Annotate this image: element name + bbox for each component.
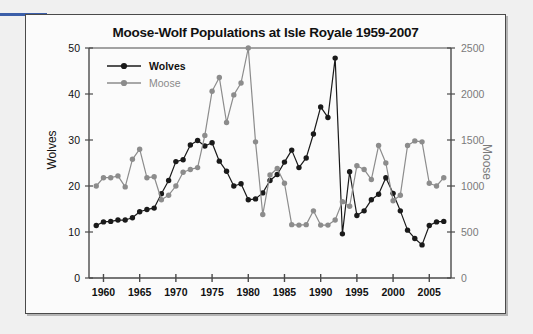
- data-point-moose: [130, 157, 135, 162]
- y-axis-right-tick-label: 0: [461, 272, 467, 284]
- x-axis-tick-label: 2005: [418, 286, 442, 298]
- data-point-moose: [108, 175, 113, 180]
- x-axis-tick-label: 1970: [164, 286, 188, 298]
- y-axis-right-tick-label: 2500: [461, 42, 485, 54]
- data-point-wolves: [332, 55, 337, 60]
- chart-figure-frame: Moose-Wolf Populations at Isle Royale 19…: [25, 14, 506, 314]
- data-point-wolves: [361, 208, 366, 213]
- data-point-moose: [195, 165, 200, 170]
- x-axis-tick-label: 1985: [273, 286, 297, 298]
- y-axis-left-tick-label: 50: [68, 42, 80, 54]
- data-point-moose: [383, 160, 388, 165]
- y-axis-right-tick-label: 2000: [461, 88, 485, 100]
- legend-label-moose: Moose: [149, 77, 181, 89]
- legend-marker-wolves: [121, 63, 127, 69]
- data-point-moose: [144, 175, 149, 180]
- legend-layer: WolvesMoose: [107, 60, 186, 89]
- data-point-moose: [434, 183, 439, 188]
- data-point-wolves: [101, 219, 106, 224]
- y-axis-right-tick-label: 1000: [461, 180, 485, 192]
- data-point-wolves: [123, 217, 128, 222]
- data-point-moose: [361, 167, 366, 172]
- data-point-moose: [209, 89, 214, 94]
- data-point-moose: [354, 163, 359, 168]
- data-point-moose: [282, 181, 287, 186]
- data-point-wolves: [173, 159, 178, 164]
- data-point-moose: [412, 138, 417, 143]
- data-point-moose: [260, 212, 265, 217]
- data-point-wolves: [419, 242, 424, 247]
- data-point-wolves: [405, 227, 410, 232]
- data-point-wolves: [296, 165, 301, 170]
- x-axis-tick-label: 1990: [309, 286, 333, 298]
- data-point-moose: [101, 175, 106, 180]
- data-point-moose: [318, 222, 323, 227]
- data-point-wolves: [434, 219, 439, 224]
- legend-marker-moose: [121, 80, 127, 86]
- data-point-moose: [231, 92, 236, 97]
- data-point-moose: [296, 222, 301, 227]
- x-axis-tick-label: 1960: [92, 286, 116, 298]
- data-point-wolves: [369, 197, 374, 202]
- x-axis-tick-label: 1995: [345, 286, 369, 298]
- x-axis-tick-label: 2000: [381, 286, 405, 298]
- data-point-wolves: [311, 131, 316, 136]
- data-point-wolves: [398, 208, 403, 213]
- data-point-wolves: [224, 169, 229, 174]
- series-layer: [94, 45, 447, 247]
- data-point-moose: [188, 167, 193, 172]
- data-point-moose: [246, 45, 251, 50]
- data-point-moose: [180, 170, 185, 175]
- data-point-moose: [224, 120, 229, 125]
- data-point-moose: [137, 147, 142, 152]
- data-point-moose: [340, 199, 345, 204]
- data-point-wolves: [253, 196, 258, 201]
- data-point-moose: [94, 183, 99, 188]
- data-point-wolves: [441, 219, 446, 224]
- data-point-moose: [369, 177, 374, 182]
- data-point-wolves: [151, 205, 156, 210]
- data-point-wolves: [427, 223, 432, 228]
- data-point-moose: [441, 175, 446, 180]
- data-point-wolves: [282, 159, 287, 164]
- data-point-wolves: [130, 215, 135, 220]
- data-point-moose: [217, 75, 222, 80]
- y-axis-left-tick-label: 40: [68, 88, 80, 100]
- data-point-moose: [289, 222, 294, 227]
- data-point-moose: [166, 193, 171, 198]
- data-point-moose: [151, 174, 156, 179]
- data-point-wolves: [94, 223, 99, 228]
- data-point-moose: [419, 139, 424, 144]
- data-point-moose: [159, 197, 164, 202]
- data-point-moose: [332, 217, 337, 222]
- x-axis-tick-label: 1975: [200, 286, 224, 298]
- data-point-moose: [202, 133, 207, 138]
- x-axis-tick-label: 1980: [237, 286, 261, 298]
- data-point-wolves: [188, 142, 193, 147]
- data-point-wolves: [354, 213, 359, 218]
- data-point-wolves: [304, 155, 309, 160]
- data-point-wolves: [231, 183, 236, 188]
- y-axis-left-tick-label: 0: [74, 272, 80, 284]
- data-point-wolves: [238, 181, 243, 186]
- y-axis-right-tick-label: 500: [461, 226, 479, 238]
- data-point-moose: [304, 222, 309, 227]
- page-background: Moose-Wolf Populations at Isle Royale 19…: [0, 0, 533, 334]
- data-point-wolves: [318, 104, 323, 109]
- data-point-moose: [390, 198, 395, 203]
- data-point-moose: [275, 166, 280, 171]
- data-point-wolves: [166, 178, 171, 183]
- data-point-wolves: [115, 217, 120, 222]
- data-point-moose: [347, 204, 352, 209]
- data-point-wolves: [195, 138, 200, 143]
- data-point-moose: [427, 181, 432, 186]
- data-point-moose: [376, 143, 381, 148]
- data-point-wolves: [180, 157, 185, 162]
- data-point-wolves: [217, 158, 222, 163]
- data-point-moose: [115, 173, 120, 178]
- data-point-moose: [267, 172, 272, 177]
- data-point-moose: [405, 143, 410, 148]
- data-point-moose: [311, 208, 316, 213]
- data-point-wolves: [209, 140, 214, 145]
- data-point-wolves: [108, 219, 113, 224]
